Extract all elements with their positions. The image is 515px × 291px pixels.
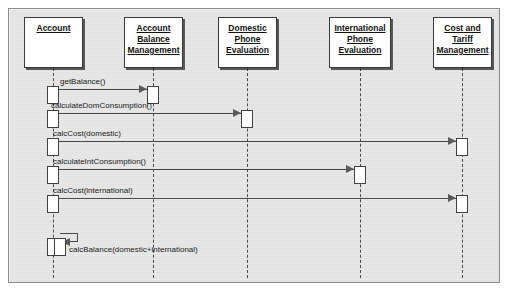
participant-label-international-phone-evaluation: International Phone Evaluation	[330, 23, 390, 56]
participant-label-domestic-phone-evaluation: Domestic Phone Evaluation	[219, 23, 276, 56]
activation-cost-and-tariff-management-1	[456, 138, 468, 156]
message-line-calccost-international	[53, 198, 456, 199]
message-line-getbalance	[53, 89, 147, 90]
activation-domestic-phone-evaluation-1	[241, 110, 253, 128]
message-arrowhead-calccost-domestic	[448, 137, 456, 145]
message-line-calculatedomconsumption	[53, 113, 241, 114]
activation-account-7	[54, 238, 66, 256]
lifeline-domestic-phone-evaluation	[247, 68, 248, 278]
message-label-calculateintconsumption: calculateIntConsumption()	[53, 157, 146, 166]
sequence-diagram-canvas: getBalance() calculateDomConsumption() c…	[0, 0, 515, 291]
participant-international-phone-evaluation[interactable]: International Phone Evaluation	[329, 17, 391, 68]
message-line-calculateintconsumption	[53, 169, 354, 170]
activation-account-4	[47, 166, 59, 184]
participant-label-account-balance-management: Account Balance Management	[125, 23, 182, 56]
message-arrowhead-getbalance	[139, 85, 147, 93]
message-arrowhead-calculatedomconsumption	[233, 109, 241, 117]
lifeline-cost-and-tariff-management	[462, 68, 463, 278]
message-arrowhead-calculateintconsumption	[346, 165, 354, 173]
message-arrowhead-calccost-international	[448, 194, 456, 202]
participant-account[interactable]: Account	[24, 17, 83, 68]
activation-account-2	[47, 110, 59, 128]
participant-domestic-phone-evaluation[interactable]: Domestic Phone Evaluation	[218, 17, 277, 68]
activation-account-5	[47, 195, 59, 213]
participant-label-cost-and-tariff-management: Cost and Tariff Management	[434, 23, 491, 56]
message-label-calcbalance: calcBalance(domestic+international)	[69, 245, 198, 254]
activation-cost-and-tariff-management-2	[456, 195, 468, 213]
activation-account-3	[47, 138, 59, 156]
message-label-getbalance: getBalance()	[60, 77, 105, 86]
participant-account-balance-management[interactable]: Account Balance Management	[124, 17, 183, 68]
message-label-calccost-international: calcCost(international)	[53, 186, 133, 195]
activation-international-phone-evaluation-1	[354, 166, 366, 184]
participant-label-account: Account	[25, 23, 82, 34]
message-line-calccost-domestic	[53, 141, 456, 142]
message-label-calculatedomconsumption: calculateDomConsumption()	[51, 101, 152, 110]
message-label-calccost-domestic: calcCost(domestic)	[53, 129, 121, 138]
participant-cost-and-tariff-management[interactable]: Cost and Tariff Management	[433, 17, 492, 68]
